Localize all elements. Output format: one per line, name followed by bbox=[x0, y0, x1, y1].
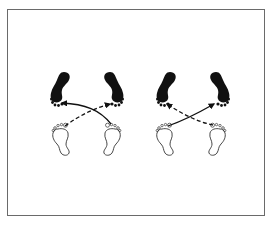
panel-left bbox=[50, 72, 124, 155]
filled-right-foot-icon bbox=[210, 72, 230, 107]
outline-left-foot-icon bbox=[156, 123, 173, 155]
filled-left-foot-icon bbox=[50, 72, 70, 107]
footwork-diagram bbox=[0, 0, 275, 226]
dashed-arrow bbox=[167, 104, 213, 125]
panel-right bbox=[156, 72, 230, 155]
filled-left-foot-icon bbox=[156, 72, 176, 107]
outline-left-foot-icon bbox=[52, 123, 69, 155]
solid-arrow bbox=[62, 103, 111, 124]
filled-right-foot-icon bbox=[104, 72, 124, 107]
outline-right-foot-icon bbox=[209, 123, 226, 155]
solid-arrow bbox=[168, 104, 214, 126]
outline-right-foot-icon bbox=[104, 123, 121, 155]
